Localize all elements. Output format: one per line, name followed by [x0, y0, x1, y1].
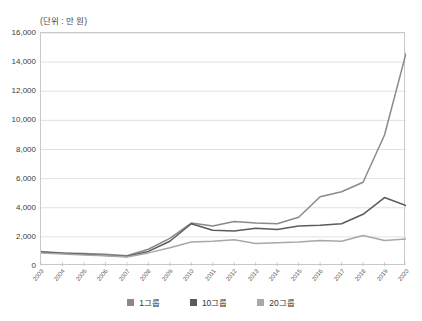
chart-figure: · · · · · · · · · · · · · · · · (단위 : 만 … [0, 0, 422, 321]
x-tick-label: 2011 [204, 268, 217, 282]
series-line [41, 198, 406, 257]
legend-swatch [257, 299, 264, 306]
y-tick-label: 16,000 [2, 28, 36, 37]
legend-item[interactable]: 10그룹 [190, 296, 227, 308]
y-tick-label: 2,000 [2, 231, 36, 240]
legend-swatch [127, 299, 134, 306]
x-axis: 2003200420052006200720082009201020112012… [40, 266, 405, 296]
x-tick-label: 2020 [397, 268, 410, 282]
x-tick-label: 2008 [139, 268, 152, 282]
x-tick-label: 2003 [32, 268, 45, 282]
y-tick-label: 8,000 [2, 144, 36, 153]
chart-legend: 1그룹10그룹20그룹 [0, 296, 422, 308]
x-tick-label: 2006 [96, 268, 109, 282]
x-tick-label: 2017 [332, 268, 345, 282]
y-axis: 02,0004,0006,0008,00010,00012,00014,0001… [0, 32, 36, 265]
legend-item[interactable]: 1그룹 [127, 296, 160, 308]
x-tick-label: 2010 [182, 268, 195, 282]
legend-label: 20그룹 [269, 296, 294, 308]
y-tick-label: 6,000 [2, 173, 36, 182]
x-tick-label: 2005 [75, 268, 88, 282]
series-line [41, 53, 406, 255]
x-tick-label: 2007 [118, 268, 131, 282]
x-tick-label: 2012 [225, 268, 238, 282]
y-tick-label: 12,000 [2, 86, 36, 95]
x-tick-label: 2015 [289, 268, 302, 282]
x-tick-label: 2016 [311, 268, 324, 282]
y-tick-label: 10,000 [2, 115, 36, 124]
legend-label: 10그룹 [202, 296, 227, 308]
clipped-header-strip: · · · · · · · · · · · · · · · · [0, 0, 422, 9]
x-tick-label: 2019 [375, 268, 388, 282]
plot-area [40, 32, 405, 265]
y-tick-label: 4,000 [2, 202, 36, 211]
legend-swatch [190, 299, 197, 306]
y-tick-label: 0 [2, 261, 36, 270]
x-tick-label: 2018 [354, 268, 367, 282]
x-tick-label: 2004 [53, 268, 66, 282]
legend-item[interactable]: 20그룹 [257, 296, 294, 308]
y-tick-label: 14,000 [2, 57, 36, 66]
x-tick-label: 2013 [246, 268, 259, 282]
unit-label: (단위 : 만 원) [40, 14, 87, 26]
legend-label: 1그룹 [139, 296, 160, 308]
x-tick-label: 2014 [268, 268, 281, 282]
series-lines [41, 33, 406, 266]
x-tick-label: 2009 [161, 268, 174, 282]
